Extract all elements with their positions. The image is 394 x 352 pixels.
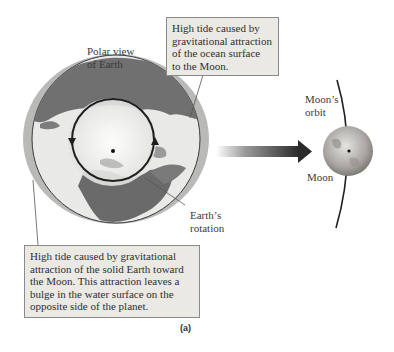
callout-bottom-line: opposite side of the planet.: [30, 300, 194, 313]
callout-top-line: gravitational attraction: [172, 35, 273, 48]
callout-bottom-line: bulge in the water surface on the: [30, 288, 194, 301]
gravity-arrow-icon: [216, 140, 312, 163]
polar-view-line-1: Polar view: [87, 45, 134, 58]
earth-rotation-line-2: rotation: [190, 222, 224, 235]
moon-orbit-line-1: Moon’s: [305, 93, 339, 106]
earth-rotation-label: Earth’s rotation: [190, 209, 224, 235]
callout-bottom-line: High tide caused by gravitational: [30, 250, 194, 263]
moon-label: Moon: [307, 171, 333, 184]
earth-rotation-line-1: Earth’s: [190, 209, 224, 222]
callout-top-line: High tide caused by: [172, 22, 273, 35]
figure-caption: (a): [180, 323, 191, 333]
moon-sphere: [323, 126, 373, 176]
ocean-tide-callout: High tide caused by gravitational attrac…: [166, 17, 279, 76]
solid-earth-tide-callout: High tide caused by gravitational attrac…: [24, 245, 200, 318]
north-pole-dot: [111, 149, 115, 153]
callout-top-line: to the Moon.: [172, 60, 273, 73]
polar-view-line-2: of Earth: [87, 58, 134, 71]
polar-view-label: Polar view of Earth: [87, 45, 134, 71]
callout-bottom-line: attraction of the solid Earth toward: [30, 263, 194, 276]
moon-orbit-label: Moon’s orbit: [305, 93, 339, 119]
callout-bottom-line: the Moon. This attraction leaves a: [30, 275, 194, 288]
callout-top-line: of the ocean surface: [172, 47, 273, 60]
moon-orbit-line-2: orbit: [305, 106, 339, 119]
